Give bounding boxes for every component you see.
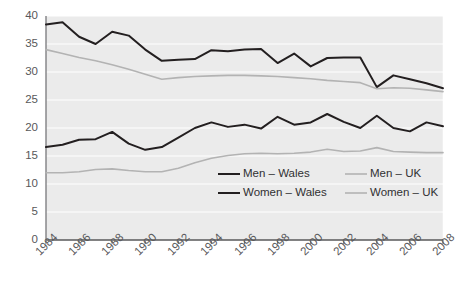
legend-label-3: Women – UK: [370, 186, 438, 198]
y-axis-tick-label: 25: [0, 94, 38, 105]
y-axis-tick-label: 20: [0, 122, 38, 133]
y-axis-tick-label: 40: [0, 10, 38, 21]
y-axis-tick-label: 5: [0, 206, 38, 217]
legend-label-2: Men – UK: [370, 167, 421, 179]
line-chart: 0510152025303540198419861988199019921994…: [0, 0, 470, 291]
y-axis-tick-label: 35: [0, 38, 38, 49]
y-axis-tick-label: 10: [0, 178, 38, 189]
y-axis-tick-label: 0: [0, 234, 38, 245]
y-axis-tick-label: 15: [0, 150, 38, 161]
legend-label-1: Women – Wales: [243, 186, 327, 198]
legend-label-0: Men – Wales: [243, 167, 310, 179]
y-axis-tick-label: 30: [0, 66, 38, 77]
